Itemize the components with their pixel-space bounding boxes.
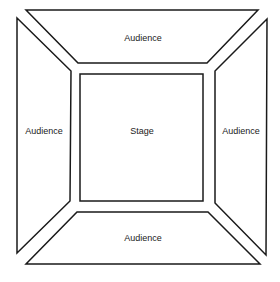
audience-right-area [215, 19, 267, 255]
stage-label: Stage [130, 126, 154, 136]
audience-bottom-label: Audience [124, 233, 162, 243]
stage-area [80, 74, 203, 201]
audience-left-label: Audience [25, 126, 63, 136]
audience-right-label: Audience [222, 126, 260, 136]
audience-top-label: Audience [124, 33, 162, 43]
